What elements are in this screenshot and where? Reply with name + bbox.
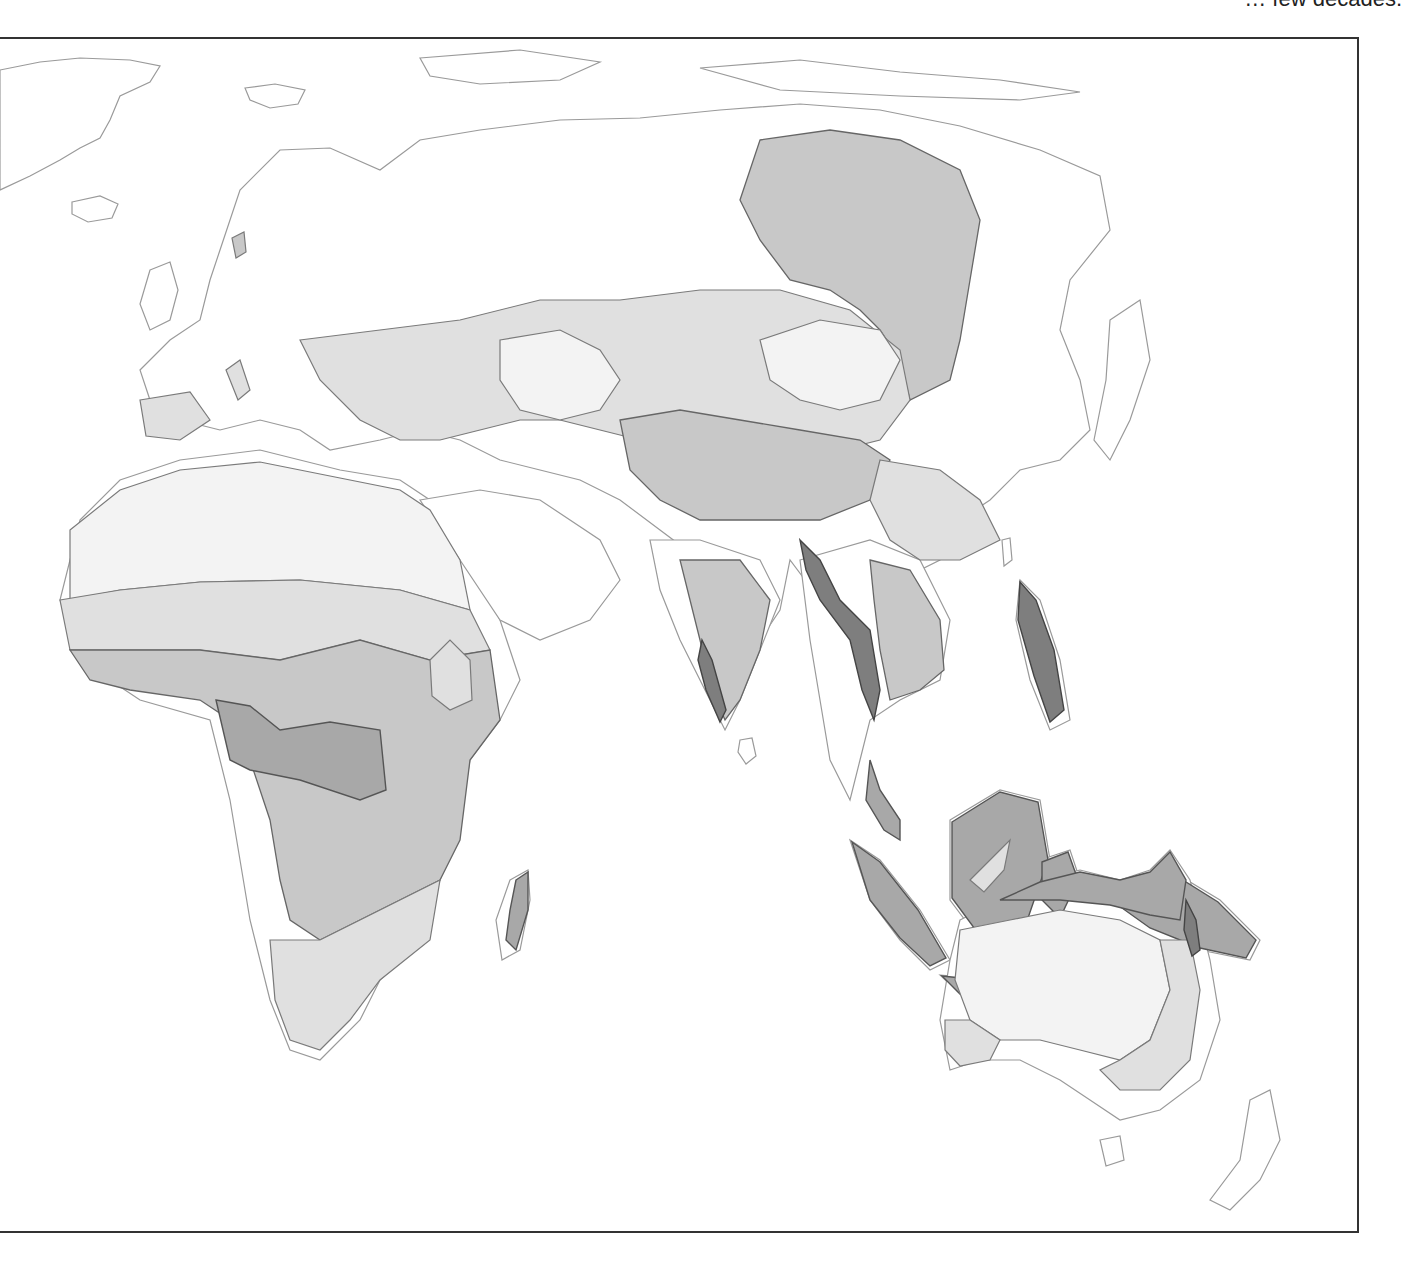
sri-lanka-outline xyxy=(738,738,756,764)
svalbard-outline xyxy=(245,84,305,108)
zone-sumatra-dark xyxy=(852,842,946,966)
british-isles-outline xyxy=(140,262,178,330)
zone-malay-peninsula-dark xyxy=(866,760,900,840)
arctic-islands-east-outline xyxy=(700,60,1080,100)
greenland-outline xyxy=(0,58,160,190)
arctic-islands-outline xyxy=(420,50,600,84)
iceland-outline xyxy=(72,196,118,222)
japan-outline xyxy=(1094,300,1150,460)
new-zealand-outline xyxy=(1210,1090,1280,1210)
taiwan-outline xyxy=(1002,538,1012,566)
tasmania-outline xyxy=(1100,1136,1124,1166)
world-map xyxy=(0,0,1408,1277)
